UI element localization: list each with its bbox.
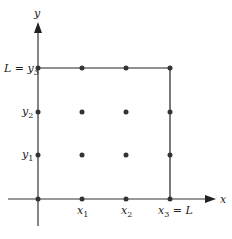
- top-boundary-label: L = y3: [3, 62, 39, 77]
- right-boundary-label: x3 = L: [158, 204, 193, 219]
- grid-point: [36, 153, 41, 158]
- grid-point: [80, 153, 85, 158]
- grid-point: [124, 110, 129, 115]
- grid-diagram: y x L = y3 y2 y1 x1 x2 x3 = L: [0, 0, 232, 239]
- y-axis-arrow-icon: [34, 22, 42, 33]
- grid-point: [36, 197, 41, 202]
- y1-label: y1: [21, 148, 33, 163]
- grid-point: [80, 66, 85, 71]
- grid-points: [36, 66, 173, 202]
- y-axis-label: y: [33, 7, 41, 20]
- grid-point: [80, 110, 85, 115]
- y2-label: y2: [21, 105, 33, 120]
- grid-point: [168, 153, 173, 158]
- grid-point: [124, 153, 129, 158]
- grid-point: [80, 197, 85, 202]
- x-axis-label: x: [220, 193, 227, 206]
- grid-point: [168, 197, 173, 202]
- x1-label: x1: [77, 204, 88, 219]
- x2-label: x2: [121, 204, 132, 219]
- boundary-box: [38, 68, 170, 199]
- grid-point: [168, 66, 173, 71]
- grid-point: [168, 110, 173, 115]
- grid-point: [124, 66, 129, 71]
- grid-point: [36, 110, 41, 115]
- grid-point: [124, 197, 129, 202]
- x-axis-arrow-icon: [205, 195, 216, 203]
